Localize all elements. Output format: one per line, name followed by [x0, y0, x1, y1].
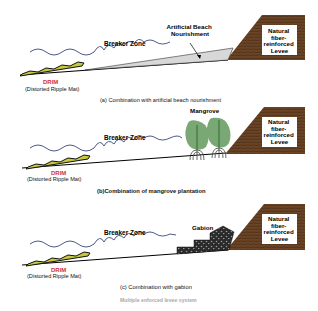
panel-caption: (a) Combination with artificial beach no…	[100, 97, 221, 103]
footer-partial-text: Multiple enforced levee system	[120, 297, 197, 303]
panel-caption: (c) Combination with gabion	[120, 284, 192, 290]
breaker-zone-label: Breaker Zone	[104, 134, 146, 141]
panel-b: Natural fiber- reinforced Levee Breaker …	[22, 107, 305, 194]
levee-label-line: Natural	[268, 215, 290, 222]
drim-mat	[26, 155, 90, 169]
seabed-line	[22, 153, 226, 168]
drim-subtitle: (Distorted Ripple Mat)	[27, 273, 82, 279]
feature-label: Mangrove	[190, 107, 220, 114]
panel-a: Natural fiber- reinforced Levee Breaker …	[20, 15, 305, 103]
beach-nourishment-wedge	[85, 48, 233, 70]
levee-label-line: Levee	[271, 47, 289, 54]
drim-mat	[26, 252, 90, 266]
levee-label-line: Natural	[268, 118, 290, 125]
feature-label: Nourishment	[171, 30, 209, 37]
drim-subtitle: (Distorted Ripple Mat)	[25, 86, 80, 92]
levee-label-line: reinforced	[264, 40, 294, 47]
drim-mat	[20, 62, 84, 76]
panel-c: Natural fiber- reinforced Levee Breaker …	[22, 204, 305, 290]
levee-label-line: Levee	[271, 235, 289, 242]
wave-line	[30, 231, 176, 247]
feature-label: Artificial Beach	[167, 23, 212, 30]
drim-subtitle: (Distorted Ripple Mat)	[27, 176, 82, 182]
panel-caption: (b)Combination of mangrove plantation	[97, 188, 206, 194]
levee-label-line: reinforced	[264, 131, 294, 138]
levee-label-line: Levee	[271, 138, 289, 145]
levee-label-line: Natural	[268, 27, 290, 34]
drim-title: DRIM	[43, 79, 58, 85]
breaker-zone-label: Breaker Zone	[104, 229, 146, 236]
feature-label: Gabion	[192, 224, 214, 231]
breaker-zone-label: Breaker Zone	[104, 40, 146, 47]
wave-line	[30, 39, 170, 55]
diagram-canvas: Natural fiber- reinforced Levee Breaker …	[0, 0, 318, 311]
svg-text:Artificial Beach Nourish: Artificial Beach Nourishment	[167, 23, 214, 37]
levee-label-line: reinforced	[264, 228, 294, 235]
